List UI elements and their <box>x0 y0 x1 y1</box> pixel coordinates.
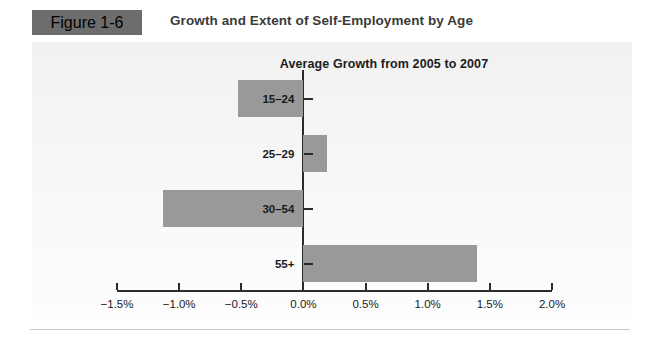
x-axis-tick <box>365 283 367 290</box>
bar-55+ <box>303 245 477 282</box>
category-tick <box>304 263 313 265</box>
bar-row: 15–24 <box>32 80 632 117</box>
plot-area: 15–2425–2930–5455+−1.5%−1.0%−0.5%0.0%0.5… <box>32 42 632 318</box>
x-axis-tick <box>240 283 242 290</box>
x-axis-tick-label: 0.5% <box>352 298 378 310</box>
x-axis-line <box>117 290 552 292</box>
x-axis-tick-label: 1.0% <box>415 298 441 310</box>
x-axis-tick-label: −1.0% <box>163 298 196 310</box>
category-tick <box>304 98 313 100</box>
bar-category-label: 55+ <box>246 258 294 270</box>
figure-number-badge: Figure 1-6 <box>32 10 142 35</box>
bar-category-label: 30–54 <box>246 203 294 215</box>
x-axis-tick-label: 0.0% <box>290 298 316 310</box>
bar-row: 30–54 <box>32 190 632 227</box>
x-axis-tick-label: 1.5% <box>477 298 503 310</box>
category-tick <box>304 208 313 210</box>
x-axis-tick <box>551 283 553 290</box>
x-axis-tick-label: 2.0% <box>539 298 565 310</box>
bar-category-label: 25–29 <box>246 148 294 160</box>
figure-title: Growth and Extent of Self-Employment by … <box>170 13 473 28</box>
x-axis-tick-label: −1.5% <box>101 298 134 310</box>
x-axis-tick <box>302 283 304 290</box>
category-tick <box>304 153 313 155</box>
bar-row: 55+ <box>32 245 632 282</box>
figure-header: Figure 1-6 Growth and Extent of Self-Emp… <box>0 0 656 42</box>
bar-category-label: 15–24 <box>246 93 294 105</box>
x-axis-tick-label: −0.5% <box>225 298 258 310</box>
x-axis-tick <box>427 283 429 290</box>
x-axis-tick <box>489 283 491 290</box>
bottom-divider <box>30 329 630 330</box>
chart-panel: Average Growth from 2005 to 2007 15–2425… <box>32 42 632 318</box>
bar-row: 25–29 <box>32 135 632 172</box>
figure-number-label: Figure 1-6 <box>51 14 124 32</box>
x-axis-tick <box>116 283 118 290</box>
x-axis-tick <box>178 283 180 290</box>
